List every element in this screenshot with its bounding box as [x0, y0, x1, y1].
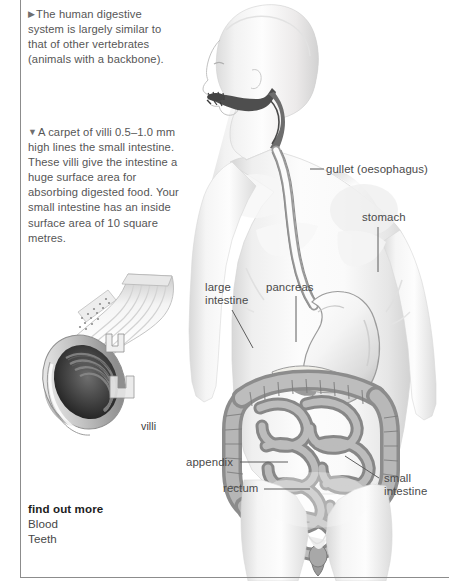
- label-villi: villi: [141, 420, 156, 433]
- label-rectum: rectum: [223, 482, 258, 495]
- caption-intro-text: The human digestive system is largely si…: [28, 8, 164, 65]
- label-large-intestine-line2: intestine: [205, 294, 248, 307]
- caption-intro: ▶The human digestive system is largely s…: [28, 7, 180, 67]
- bottom-rule: [20, 577, 449, 578]
- find-out-more-title: find out more: [28, 501, 178, 516]
- label-large-intestine: large intestine: [205, 281, 248, 308]
- find-out-more-section: find out more Blood Teeth: [28, 501, 178, 546]
- caption-marker-right-triangle: ▶: [28, 9, 36, 19]
- villi-cutaway-illustration: [22, 272, 212, 447]
- label-small-intestine-line1: small: [384, 472, 427, 485]
- find-out-more-link-teeth[interactable]: Teeth: [28, 531, 178, 546]
- figure-page: ▶The human digestive system is largely s…: [0, 0, 449, 581]
- label-gullet-oesophagus: gullet (oesophagus): [326, 163, 428, 176]
- label-small-intestine-line2: intestine: [384, 485, 427, 498]
- label-appendix: appendix: [186, 456, 233, 469]
- label-stomach: stomach: [362, 211, 406, 224]
- label-small-intestine: small intestine: [384, 472, 427, 499]
- caption-villi-text: A carpet of villi 0.5–1.0 mm high lines …: [28, 126, 179, 244]
- label-pancreas: pancreas: [266, 281, 314, 294]
- find-out-more-link-blood[interactable]: Blood: [28, 516, 178, 531]
- label-large-intestine-line1: large: [205, 281, 248, 294]
- column-divider-rule: [20, 0, 21, 578]
- caption-marker-down-triangle: ▼: [28, 127, 38, 137]
- caption-villi: ▼A carpet of villi 0.5–1.0 mm high lines…: [28, 125, 180, 246]
